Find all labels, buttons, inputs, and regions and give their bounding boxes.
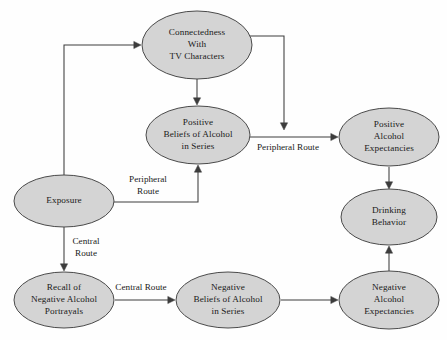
arrowhead-icon [193, 98, 200, 105]
edge-label: Peripheral Route [257, 142, 319, 152]
node-drinking_behavior[interactable]: DrinkingBehavior [341, 189, 437, 245]
node-layer: ConnectednessWithTV CharactersPositiveBe… [14, 11, 439, 329]
flowchart-svg: ConnectednessWithTV CharactersPositiveBe… [0, 0, 447, 340]
arrowhead-icon [331, 296, 338, 303]
edge-recall-to-negative-beliefs [115, 296, 175, 303]
edge-label: Central Route [115, 282, 166, 292]
edge-label: PeripheralRoute [129, 174, 167, 196]
arrowhead-icon [385, 246, 392, 253]
edge-connectedness-to-peripheral-route [249, 36, 288, 130]
arrowhead-icon [194, 165, 201, 172]
node-positive_beliefs[interactable]: PositiveBeliefs of Alcoholin Series [146, 106, 250, 164]
arrowhead-icon [60, 264, 67, 271]
edge-line [64, 45, 139, 175]
node-connectedness[interactable]: ConnectednessWithTV Characters [142, 11, 252, 79]
node-positive_expectancies[interactable]: PositiveAlcoholExpectancies [339, 108, 439, 166]
arrowhead-icon [134, 41, 141, 48]
node-exposure[interactable]: Exposure [14, 175, 114, 227]
edge-connectedness-to-positive-beliefs [193, 79, 200, 105]
edge-negative-beliefs-to-negative-expectancies [281, 296, 338, 303]
edge-label-layer: Peripheral RoutePeripheralRouteCentralRo… [72, 142, 319, 292]
node-negative_beliefs[interactable]: NegativeBeliefs of Alcoholin Series [176, 272, 280, 328]
arrowhead-icon [280, 123, 287, 130]
node-label: DrinkingBehavior [372, 205, 407, 227]
arrowhead-icon [385, 182, 392, 189]
node-negative_expectancies[interactable]: NegativeAlcoholExpectancies [339, 271, 439, 329]
edge-line [249, 36, 284, 126]
edge-label: CentralRoute [72, 236, 99, 258]
edge-positive-expectancies-to-drinking [385, 167, 392, 189]
arrowhead-icon [168, 296, 175, 303]
arrowhead-icon [331, 133, 338, 140]
diagram-canvas: ConnectednessWithTV CharactersPositiveBe… [0, 0, 447, 340]
edge-positive-beliefs-to-positive-expectancies [250, 133, 338, 140]
edge-exposure-to-recall [60, 227, 67, 271]
edge-negative-expectancies-to-drinking [385, 246, 392, 272]
edge-layer [60, 36, 392, 304]
node-label: Exposure [46, 195, 82, 205]
node-recall_negative[interactable]: Recall ofNegative AlcoholPortrayals [14, 272, 114, 328]
edge-exposure-to-connectedness [64, 41, 141, 175]
